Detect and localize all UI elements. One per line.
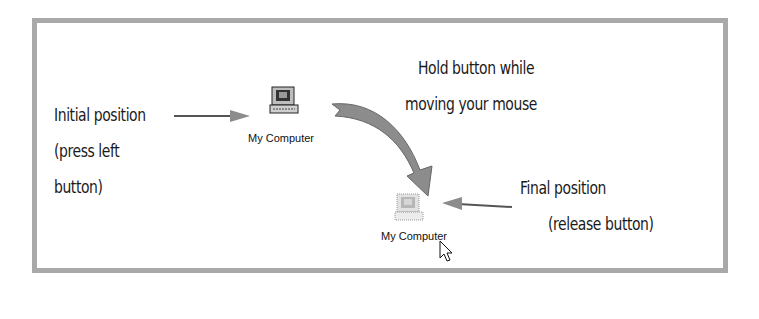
icon-caption-initial: My Computer [248, 132, 314, 144]
my-computer-icon-initial[interactable] [270, 87, 298, 113]
final-arrow-icon [442, 197, 512, 210]
drag-curve-arrow-icon [332, 104, 432, 196]
final-position-label: Final position [520, 175, 606, 201]
my-computer-icon-final[interactable] [395, 194, 423, 220]
mouse-cursor-icon [440, 241, 452, 261]
initial-position-label: Initial position [54, 102, 146, 128]
moving-mouse-label: moving your mouse [405, 91, 537, 117]
initial-position-hint-1: (press left [54, 138, 119, 164]
initial-position-hint-2: button) [54, 174, 103, 200]
initial-arrow-icon [174, 110, 250, 122]
icon-caption-final: My Computer [381, 230, 447, 242]
hold-button-label: Hold button while [418, 55, 534, 81]
release-button-label: (release button) [548, 211, 654, 237]
